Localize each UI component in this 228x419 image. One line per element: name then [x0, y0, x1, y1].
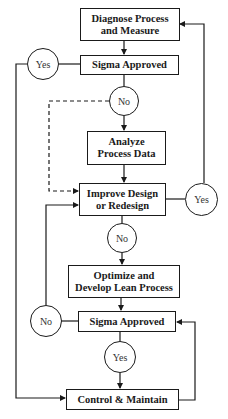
diagnose-line1: Diagnose Process	[91, 13, 168, 25]
control-maintain-box: Control & Maintain	[66, 389, 179, 410]
improve-line1: Improve Design	[87, 188, 158, 200]
yes-decision-circle-2: Yes	[185, 183, 218, 216]
no-decision-circle-1: No	[109, 86, 139, 116]
improve-design-box: Improve Designor Redesign	[79, 183, 166, 216]
sigma-approved-box-1: Sigma Approved	[80, 55, 179, 75]
analyze-process-data-box: AnalyzeProcess Data	[87, 131, 166, 165]
yes-decision-circle-1: Yes	[27, 48, 59, 80]
sigma-approved-label-1: Sigma Approved	[92, 59, 167, 71]
sigma-approved-box-2: Sigma Approved	[78, 311, 176, 332]
improve-line2: or Redesign	[87, 200, 158, 212]
no-label-1: No	[118, 96, 130, 107]
optimize-lean-process-box: Optimize andDevelop Lean Process	[68, 265, 180, 298]
optimize-line1: Optimize and	[75, 270, 173, 282]
control-maintain-label: Control & Maintain	[77, 394, 167, 406]
optimize-line2: Develop Lean Process	[75, 282, 173, 294]
yes-decision-circle-3: Yes	[104, 341, 136, 373]
sigma-approved-label-2: Sigma Approved	[90, 316, 165, 328]
analyze-line2: Process Data	[98, 148, 156, 160]
yes-label-2: Yes	[194, 194, 209, 205]
no-decision-circle-3: No	[30, 305, 62, 337]
analyze-line1: Analyze	[98, 136, 156, 148]
no-label-2: No	[116, 233, 128, 244]
no-decision-circle-2: No	[107, 223, 137, 253]
yes-label-1: Yes	[36, 59, 51, 70]
no-label-3: No	[40, 316, 52, 327]
diagnose-process-box: Diagnose Processand Measure	[80, 8, 180, 41]
diagnose-line2: and Measure	[91, 25, 168, 37]
yes-label-3: Yes	[113, 352, 128, 363]
